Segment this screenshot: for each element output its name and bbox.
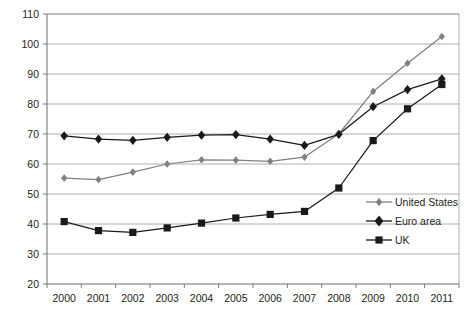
y-axis-tick-label: 100 bbox=[0, 39, 39, 50]
legend-marker-united-states bbox=[366, 196, 392, 208]
legend-label-united-states: United States bbox=[395, 196, 458, 208]
y-axis-tick-label: 50 bbox=[0, 189, 39, 200]
legend-item-uk: UK bbox=[366, 234, 458, 246]
legend-marker-uk bbox=[366, 234, 392, 246]
plot-area bbox=[0, 0, 467, 312]
legend-item-united-states: United States bbox=[366, 196, 458, 208]
line-chart: United States Euro area UK 2030405060708… bbox=[0, 0, 467, 312]
y-axis-tick-label: 20 bbox=[0, 279, 39, 290]
y-axis-tick-label: 30 bbox=[0, 249, 39, 260]
y-axis-tick-label: 40 bbox=[0, 219, 39, 230]
legend-marker-euro-area bbox=[366, 215, 392, 227]
y-axis-tick-label: 70 bbox=[0, 129, 39, 140]
y-axis-tick-label: 110 bbox=[0, 9, 39, 20]
y-axis-tick-label: 80 bbox=[0, 99, 39, 110]
legend-label-uk: UK bbox=[395, 234, 410, 246]
chart-legend: United States Euro area UK bbox=[366, 196, 458, 246]
legend-label-euro-area: Euro area bbox=[395, 215, 441, 227]
y-axis-tick-label: 60 bbox=[0, 159, 39, 170]
y-axis-tick-label: 90 bbox=[0, 69, 39, 80]
legend-item-euro-area: Euro area bbox=[366, 215, 458, 227]
x-axis-tick-label: 2011 bbox=[418, 293, 466, 304]
